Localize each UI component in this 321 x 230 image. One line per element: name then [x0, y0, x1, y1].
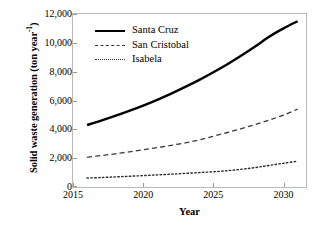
legend-label-santa-cruz: Santa Cruz [132, 23, 178, 38]
series-line-isabela [87, 161, 298, 178]
x-axis-title: Year [72, 206, 307, 217]
legend-label-san-cristobal: San Cristobal [132, 38, 189, 53]
y-tick-mark [73, 129, 77, 130]
y-tick-label: 8,000 [26, 67, 72, 77]
x-tick-label: 2030 [264, 190, 304, 200]
y-tick-label: 12,000 [26, 9, 72, 19]
y-tick-mark [73, 158, 77, 159]
x-tick-mark [143, 183, 144, 187]
y-tick-mark [73, 43, 77, 44]
x-tick-mark [284, 183, 285, 187]
y-tick-label: 6,000 [26, 96, 72, 106]
series-line-san-cristobal [87, 109, 298, 157]
legend-line-solid-icon [95, 25, 125, 35]
legend-line-dashed-icon [95, 40, 125, 50]
chart-figure: Solid waste generation (ton year-1) 02,0… [0, 0, 321, 230]
y-tick-label: 2,000 [26, 153, 72, 163]
y-axis-title-superscript: -1 [25, 26, 34, 32]
legend-item-santa-cruz: Santa Cruz [95, 23, 189, 38]
legend-line-dotted-icon [95, 54, 125, 64]
x-tick-label: 2015 [53, 190, 93, 200]
y-tick-label: 10,000 [26, 38, 72, 48]
legend-item-san-cristobal: San Cristobal [95, 38, 189, 53]
y-tick-mark [73, 101, 77, 102]
x-tick-label: 2020 [123, 190, 163, 200]
x-tick-label: 2025 [193, 190, 233, 200]
x-tick-mark [73, 183, 74, 187]
legend-item-isabela: Isabela [95, 52, 189, 67]
y-tick-mark [73, 14, 77, 15]
legend-label-isabela: Isabela [132, 52, 162, 67]
y-tick-mark [73, 72, 77, 73]
chart-legend: Santa Cruz San Cristobal Isabela [95, 23, 189, 67]
y-axis-title-close: ) [28, 23, 39, 26]
x-tick-mark [213, 183, 214, 187]
y-tick-label: 4,000 [26, 124, 72, 134]
